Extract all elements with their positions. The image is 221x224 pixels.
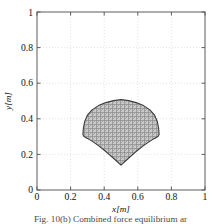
figure-caption: Fig. 10(b) Combined force equilibrium ar	[0, 214, 221, 224]
plot-canvas: 0 0.2 0.4 0.6 0.8 1 0 0.2 0.4 0.6 0.8 1 …	[0, 0, 221, 224]
y-tick-label: 1	[28, 7, 33, 18]
x-axis-title: x[m]	[111, 204, 130, 214]
x-tick-label: 0.8	[165, 191, 177, 202]
x-tick-label: 0.4	[98, 191, 110, 202]
figure-panel: 0 0.2 0.4 0.6 0.8 1 0 0.2 0.4 0.6 0.8 1 …	[0, 0, 221, 224]
x-tick-label: 1	[203, 191, 208, 202]
y-tick-label: 0.4	[21, 113, 33, 124]
y-axis-title: y[m]	[3, 92, 13, 111]
x-tick-labels: 0 0.2 0.4 0.6 0.8 1	[35, 191, 208, 202]
y-tick-label: 0	[28, 184, 33, 195]
y-tick-label: 0.8	[21, 42, 33, 53]
y-tick-label: 0.6	[21, 77, 33, 88]
y-tick-label: 0.2	[21, 149, 33, 160]
x-tick-label: 0.6	[132, 191, 144, 202]
x-tick-label: 0	[35, 191, 40, 202]
x-tick-label: 0.2	[65, 191, 77, 202]
y-tick-labels: 0 0.2 0.4 0.6 0.8 1	[21, 7, 33, 196]
